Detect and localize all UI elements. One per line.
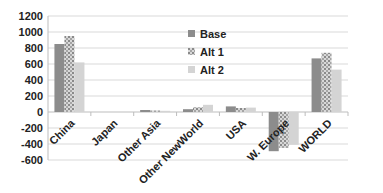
legend-label: Alt 1 bbox=[200, 46, 224, 58]
y-axis: 120010008006004002000-200-400-600 bbox=[19, 10, 48, 166]
legend-swatch bbox=[188, 30, 195, 37]
y-tick-label: 0 bbox=[37, 106, 43, 118]
y-tick-label: 200 bbox=[25, 90, 43, 102]
legend: BaseAlt 1Alt 2 bbox=[188, 28, 226, 76]
bar-alt-2 bbox=[332, 70, 342, 112]
bar-alt-2 bbox=[246, 108, 256, 112]
bar-alt-1 bbox=[322, 53, 332, 112]
bar-base bbox=[226, 106, 236, 112]
x-category-label: USA bbox=[223, 117, 248, 142]
x-axis: ChinaJapanOther AsiaOther NewWorldUSAW. … bbox=[47, 112, 348, 186]
y-tick-label: -400 bbox=[21, 138, 43, 150]
y-tick-label: 400 bbox=[25, 74, 43, 86]
legend-label: Base bbox=[200, 28, 226, 40]
bar-alt-2 bbox=[203, 105, 213, 112]
y-tick-label: 1000 bbox=[19, 26, 43, 38]
bar-alt-2 bbox=[160, 111, 170, 112]
x-category-label: WORLD bbox=[296, 117, 334, 155]
legend-swatch bbox=[188, 66, 195, 73]
y-tick-label: -200 bbox=[21, 122, 43, 134]
y-tick-label: 800 bbox=[25, 42, 43, 54]
y-tick-label: 1200 bbox=[19, 10, 43, 22]
bar-base bbox=[54, 44, 64, 112]
x-category-label: China bbox=[47, 116, 78, 147]
bar-alt-1 bbox=[64, 36, 74, 112]
y-tick-label: -600 bbox=[21, 154, 43, 166]
bar-base bbox=[140, 110, 150, 112]
bar-alt-1 bbox=[236, 108, 246, 112]
bar-base bbox=[183, 109, 193, 112]
bar-alt-1 bbox=[150, 110, 160, 112]
legend-swatch bbox=[188, 48, 195, 55]
x-category-label: Japan bbox=[89, 117, 120, 148]
bar-base bbox=[312, 58, 322, 112]
bar-alt-2 bbox=[289, 112, 299, 145]
y-tick-label: 600 bbox=[25, 58, 43, 70]
bar-chart: 120010008006004002000-200-400-600 ChinaJ… bbox=[0, 0, 383, 193]
bar-alt-1 bbox=[193, 107, 203, 112]
legend-label: Alt 2 bbox=[200, 64, 224, 76]
bar-alt-2 bbox=[74, 62, 84, 112]
